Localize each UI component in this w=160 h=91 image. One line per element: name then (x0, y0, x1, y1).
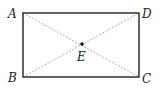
point-e (80, 42, 84, 46)
label-e: E (76, 50, 86, 64)
label-c: C (142, 72, 151, 86)
rectangle-diagram: A D B C E (0, 0, 160, 91)
label-b: B (7, 71, 17, 85)
label-a: A (7, 7, 17, 21)
label-d: D (141, 7, 152, 21)
